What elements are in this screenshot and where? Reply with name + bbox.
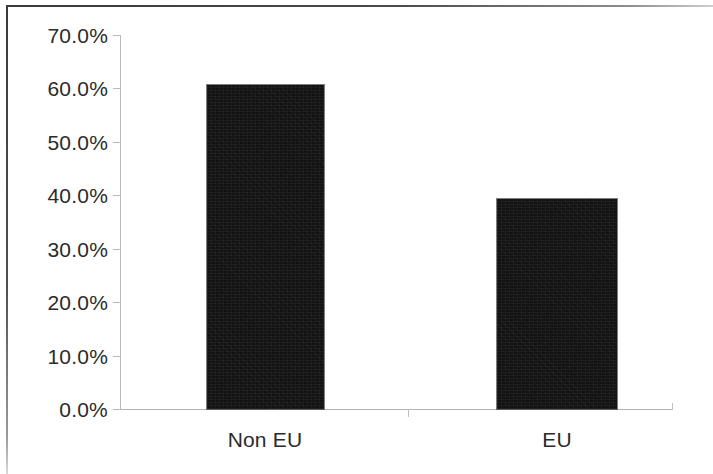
y-axis-label-10: 10.0% (4, 345, 108, 369)
bar-chart-plot-area: 70.0% 60.0% 50.0% 40.0% 30.0% 20.0% 10.0… (0, 0, 713, 474)
y-axis-label-70-wrap: 70.0% (0, 24, 108, 48)
bar-non-eu[interactable] (207, 85, 324, 409)
y-axis-line (120, 35, 121, 410)
y-axis-tick-10 (113, 356, 121, 357)
x-axis-category-label-eu: EU (497, 428, 617, 452)
y-axis-tick-20 (113, 302, 121, 303)
y-axis-label-40: 40.0% (4, 184, 108, 208)
x-axis-line (120, 409, 673, 410)
y-axis-tick-60 (113, 88, 121, 89)
bar-eu[interactable] (497, 199, 617, 409)
y-axis-tick-30 (113, 249, 121, 250)
chart-figure: 70.0% 60.0% 50.0% 40.0% 30.0% 20.0% 10.0… (0, 0, 713, 474)
y-axis-label-0-wrap: 0.0% (0, 398, 108, 422)
y-axis-label-20: 20.0% (4, 291, 108, 315)
y-axis-label-60: 60.0% (4, 77, 108, 101)
y-axis-label-0: 0.0% (4, 398, 108, 422)
x-axis-category-label-non-eu: Non EU (205, 428, 325, 452)
y-axis-label-30-wrap: 30.0% (0, 238, 108, 262)
y-axis-label-10-wrap: 10.0% (0, 345, 108, 369)
y-axis-label-60-wrap: 60.0% (0, 77, 108, 101)
y-axis-label-70: 70.0% (4, 24, 108, 48)
y-axis-label-30: 30.0% (4, 238, 108, 262)
y-axis-label-50-wrap: 50.0% (0, 131, 108, 155)
x-axis-end-cap (672, 403, 673, 410)
x-axis-tick-category-divider (408, 409, 409, 417)
y-axis-tick-50 (113, 142, 121, 143)
y-axis-label-20-wrap: 20.0% (0, 291, 108, 315)
y-axis-tick-40 (113, 195, 121, 196)
y-axis-label-50: 50.0% (4, 131, 108, 155)
y-axis-tick-0 (113, 409, 121, 410)
y-axis-tick-70 (113, 35, 121, 36)
y-axis-label-40-wrap: 40.0% (0, 184, 108, 208)
